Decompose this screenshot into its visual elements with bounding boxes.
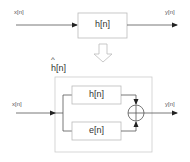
system-block-label: h[n] — [78, 19, 127, 29]
estimated-output-label: y[n] — [165, 101, 175, 107]
estimated-system-title: h[n] — [51, 63, 66, 73]
inner-e-label: e[n] — [72, 125, 121, 135]
transform-arrow-icon — [94, 44, 112, 62]
output-label: y[n] — [165, 9, 175, 15]
summer-plus-icon — [128, 105, 144, 121]
input-label: x[n] — [14, 9, 24, 15]
inner-h-label: h[n] — [72, 89, 121, 99]
estimated-input-label: x[n] — [12, 101, 22, 107]
